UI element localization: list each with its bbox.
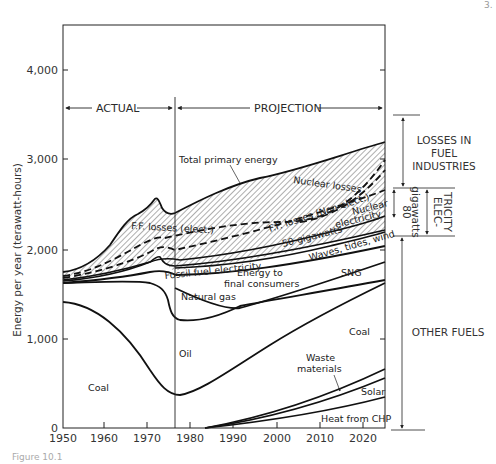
y-tick-2000: 2,000 [27,244,59,257]
label-solar: Solar [361,386,385,397]
x-tick-1950: 1950 [49,432,77,445]
x-tick-1990: 1990 [219,432,247,445]
label-sng: SNG [341,267,362,278]
label-natural-gas: Natural gas [181,291,236,302]
actual-label: ACTUAL [96,102,140,115]
y-axis-label: Energy per year (terawatt-hours) [11,163,23,337]
label-final-consumers: final consumers [224,278,300,289]
label-heat-from-chp: Heat from CHP [321,413,391,424]
gw80-label-2: gigawatts [410,186,422,237]
losses-label-2: FUEL [431,147,457,159]
x-tick-2010: 2010 [306,432,334,445]
label-total-primary-energy: Total primary energy [178,154,278,165]
losses-label-3: INDUSTRIES [412,160,476,172]
x-tick-2000: 2000 [263,432,291,445]
x-axis: 1950 1960 1970 1980 1990 2000 2010 2020 [49,422,377,445]
y-tick-1000: 1,000 [27,333,59,346]
label-energy-to: Energy to [237,267,283,278]
label-oil: Oil [179,348,192,359]
projection-label: PROJECTION [254,102,322,115]
energy-chart: ACTUAL PROJECTION 4,000 3,000 2,000 1,00… [0,0,496,464]
label-waste: Waste [306,352,335,363]
elec-label-2: TRICITY [442,191,454,233]
losses-label-1: LOSSES IN [417,134,472,146]
figure-caption: Figure 10.1 [12,452,62,462]
x-tick-2020: 2020 [349,432,377,445]
x-tick-1970: 1970 [133,432,161,445]
label-coal-right: Coal [349,326,370,337]
side-brackets: LOSSES IN FUEL INDUSTRIES 80 gigawatts E… [391,115,485,430]
label-coal-left: Coal [88,382,109,393]
label-materials: materials [297,363,342,374]
x-tick-1980: 1980 [176,432,204,445]
y-tick-4000: 4,000 [27,64,59,77]
y-tick-3000: 3,000 [27,153,59,166]
x-tick-1960: 1960 [90,432,118,445]
other-fuels-label: OTHER FUELS [412,326,485,338]
